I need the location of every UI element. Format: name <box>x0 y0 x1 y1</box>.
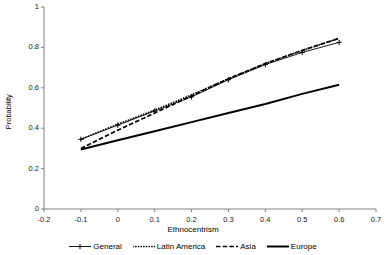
x-tick-label: -0.2 <box>24 216 64 224</box>
x-tick-label: 0.3 <box>208 216 248 224</box>
series-line-europe <box>81 85 339 150</box>
y-tick-label: 1 <box>8 3 39 11</box>
legend-swatch-dotted <box>133 242 155 251</box>
legend-item-asia[interactable]: Asia <box>216 242 256 251</box>
x-tick-label: 0.5 <box>282 216 322 224</box>
x-tick-label: 0.7 <box>356 216 386 224</box>
y-tick-label: 0 <box>8 205 39 213</box>
legend-swatch-dashed <box>216 242 238 251</box>
chart-legend: GeneralLatin AmericaAsiaEurope <box>0 242 386 251</box>
y-tick-label: 0.6 <box>8 84 39 92</box>
legend-item-europe[interactable]: Europe <box>267 242 317 251</box>
legend-label: Europe <box>291 243 317 251</box>
legend-label: Asia <box>240 243 256 251</box>
x-tick-label: 0 <box>98 216 138 224</box>
data-point-marker <box>337 40 342 45</box>
y-tick-label: 0.4 <box>8 124 39 132</box>
legend-item-latin-america[interactable]: Latin America <box>133 242 205 251</box>
x-tick-label: 0.1 <box>135 216 175 224</box>
x-tick-label: 0.6 <box>319 216 359 224</box>
legend-swatch-solid-marker <box>69 242 91 251</box>
legend-label: Latin America <box>157 243 205 251</box>
x-tick-label: -0.1 <box>61 216 101 224</box>
x-tick-label: 0.4 <box>245 216 285 224</box>
legend-item-general[interactable]: General <box>69 242 121 251</box>
x-tick-label: 0.2 <box>172 216 212 224</box>
y-tick-label: 0.8 <box>8 43 39 51</box>
x-axis-title: Ethnocentrism <box>0 226 386 234</box>
y-tick-label: 0.2 <box>8 165 39 173</box>
y-axis-title-wrapper: Probability <box>1 84 13 144</box>
legend-swatch-thick-solid <box>267 242 289 251</box>
legend-label: General <box>93 243 121 251</box>
chart-container: Probability Ethnocentrism 00.20.40.60.81… <box>0 0 386 255</box>
